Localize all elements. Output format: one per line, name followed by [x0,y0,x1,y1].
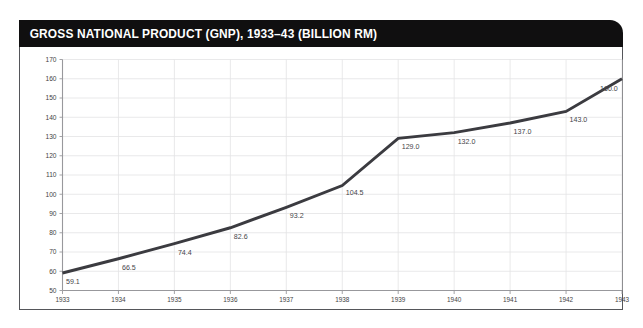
x-axis-label-1940: 1940 [447,296,462,303]
x-axis-label-1934: 1934 [111,296,126,303]
point-label-1936: 82.6 [234,233,248,241]
x-axis-label-1939: 1939 [391,296,406,303]
chart-title-banner: GROSS NATIONAL PRODUCT (GNP), 1933–43 (B… [19,20,623,47]
plot-area: 5060708090100110120130140150160170 19331… [0,0,643,328]
x-axis-label-1943: 1943 [615,296,630,303]
chart-figure: GROSS NATIONAL PRODUCT (GNP), 1933–43 (B… [0,0,643,328]
line-chart-svg: 5060708090100110120130140150160170 19331… [0,0,643,328]
y-axis-label-120: 120 [45,152,56,159]
point-label-1939: 129.0 [402,143,420,151]
x-axis-label-1936: 1936 [223,296,238,303]
x-axis-label-1937: 1937 [279,296,294,303]
y-axis-label-70: 70 [49,248,57,255]
page-title: GROSS NATIONAL PRODUCT (GNP), 1933–43 (B… [19,27,377,41]
x-axis-label-1933: 1933 [55,296,70,303]
point-label-1933: 59.1 [66,278,80,286]
y-axis-label-160: 160 [45,75,56,82]
x-axis-label-1935: 1935 [167,296,182,303]
point-label-1942: 143.0 [570,116,588,124]
point-label-1938: 104.5 [346,189,364,197]
y-axis-label-80: 80 [49,229,57,236]
point-label-1937: 93.2 [290,212,304,220]
point-label-1934: 66.5 [122,264,136,272]
y-axis-label-170: 170 [45,56,56,63]
y-axis-label-100: 100 [45,191,56,198]
y-axis-tick-labels: 5060708090100110120130140150160170 [45,56,56,294]
x-axis-label-1942: 1942 [559,296,574,303]
y-axis-label-140: 140 [45,114,56,121]
y-axis-label-60: 60 [49,268,57,275]
x-axis-label-1941: 1941 [503,296,518,303]
x-axis-label-1938: 1938 [335,296,350,303]
x-axis-tick-labels: 1933193419351936193719381939194019411942… [55,296,629,303]
y-axis-label-110: 110 [46,171,57,178]
point-label-1941: 137.0 [514,128,532,136]
y-axis-label-90: 90 [49,210,57,217]
y-axis-label-130: 130 [45,133,56,140]
tick-marks [60,60,623,295]
point-label-1943: 160.0 [600,85,618,93]
point-label-1935: 74.4 [178,249,192,257]
point-label-1940: 132.0 [458,138,476,146]
y-axis-label-50: 50 [49,287,57,294]
y-axis-label-150: 150 [45,94,56,101]
